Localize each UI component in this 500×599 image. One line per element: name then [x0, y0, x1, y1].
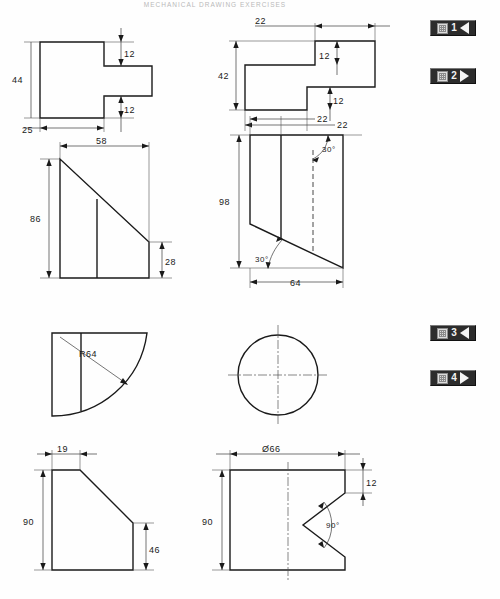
dim-label-r64: R64 [79, 349, 97, 359]
parallelogram-outline [250, 135, 343, 268]
arrow-d66-a [230, 451, 237, 456]
arrow-12-top-b [118, 59, 123, 66]
dim-label-44: 44 [12, 75, 23, 85]
dim-label-90-deg: 90° [326, 521, 340, 530]
nav-button-2-label: 2 [451, 71, 457, 81]
arrow-19-a [45, 451, 52, 456]
dim-label-22-top: 22 [255, 16, 266, 26]
dim-label-64: 64 [290, 278, 301, 288]
arrow-left-icon [460, 327, 469, 339]
grid-icon [437, 373, 448, 384]
arrow-58-a [60, 143, 67, 148]
dim-label-90-left: 90 [23, 517, 34, 527]
dim-label-d66: Ø66 [262, 444, 281, 454]
arrow-19-b [80, 451, 87, 456]
nav-button-2[interactable]: 2 [430, 68, 476, 84]
arrow-right-icon [460, 372, 469, 384]
figure-wedge-profile: 58 86 28 [12, 130, 212, 290]
grid-icon [437, 328, 448, 339]
dim-label-42: 42 [218, 71, 229, 81]
arrow-86-a [46, 159, 51, 166]
dim-label-12-upper: 12 [319, 51, 330, 61]
arrow-90l-b [40, 563, 45, 570]
drawing-sheet: MECHANICAL DRAWING EXERCISES 44 12 12 25 [0, 0, 500, 599]
arrow-right-icon [460, 70, 469, 82]
nav-button-3[interactable]: 3 [430, 325, 476, 341]
grid-icon [437, 23, 448, 34]
dim-label-30-upper: 30° [322, 145, 336, 154]
nav-button-1[interactable]: 1 [430, 20, 476, 36]
wedge-outline [60, 159, 149, 278]
page-title: MECHANICAL DRAWING EXERCISES [0, 1, 430, 8]
arrow-90l-a [40, 470, 45, 477]
nav-button-4-label: 4 [451, 373, 457, 383]
arrow-22-top-a [315, 23, 322, 28]
arrow-58-b [142, 143, 149, 148]
arrow-22-top-b [368, 23, 375, 28]
dim-label-12-top: 12 [124, 49, 135, 59]
arrow-12v-a [360, 463, 365, 470]
arrow-12-bot-b [118, 111, 123, 118]
arrow-90v-a [219, 470, 224, 477]
dim-label-30-lower: 30° [255, 255, 269, 264]
arrow-12-low-b [327, 103, 332, 110]
arrow-64-b [336, 279, 343, 284]
arrow-86-b [46, 271, 51, 278]
arrow-42-b [233, 103, 238, 110]
dim-label-98: 98 [219, 197, 230, 207]
arrow-28-a [159, 242, 164, 249]
figure-circle-with-centerlines [215, 315, 365, 435]
tee-outline [40, 42, 152, 118]
figure-vee-notch-cylinder: Ø66 12 90 90° [200, 440, 395, 585]
dim-label-28: 28 [165, 257, 176, 267]
z-outline [245, 41, 375, 110]
dim-label-46: 46 [149, 545, 160, 555]
arrow-12-up-a [334, 41, 339, 48]
grid-icon [437, 71, 448, 82]
arrow-98-b [236, 261, 241, 268]
nav-button-4[interactable]: 4 [430, 370, 476, 386]
arrow-12-top-a [118, 35, 123, 42]
arrow-arc-a [318, 502, 324, 509]
figure-parallelogram-prism: 22 98 64 30° 30° [210, 112, 420, 297]
dim-label-12-lower: 12 [333, 96, 344, 106]
arrow-98-a [236, 135, 241, 142]
arrow-46-a [143, 523, 148, 530]
arrow-42-a [233, 41, 238, 48]
figure-chamfered-block-profile: 19 90 46 [12, 440, 202, 585]
dim-label-86: 86 [30, 214, 41, 224]
chamfer-outline [52, 470, 133, 570]
dim-label-19: 19 [57, 444, 68, 454]
arrow-28-b [159, 271, 164, 278]
dim-label-22-p: 22 [317, 114, 328, 124]
arrow-d66-b [338, 451, 345, 456]
figure-quarter-round-profile: R64 [35, 315, 195, 435]
quarter-round-outline [52, 333, 147, 416]
figure-tee-profile: 44 12 12 25 [10, 20, 210, 135]
arrow-30-upper-top [326, 135, 331, 142]
arrow-46-b [143, 563, 148, 570]
nav-button-1-label: 1 [451, 23, 457, 33]
arrow-12-bot-a [118, 96, 123, 103]
arrow-90v-b [219, 563, 224, 570]
arrow-left-icon [460, 22, 469, 34]
arrow-12-up-b [334, 58, 339, 65]
dim-label-12-v: 12 [366, 478, 377, 488]
dim-label-58: 58 [96, 136, 107, 146]
arrow-12v-b [360, 493, 365, 500]
dim-label-12-bottom: 12 [124, 105, 135, 115]
arrow-22-p [250, 116, 257, 121]
leader-r64 [60, 337, 127, 384]
arrow-64-a [250, 279, 257, 284]
vee-notch-outline [230, 470, 345, 570]
arrow-12-low-a [327, 87, 332, 94]
nav-button-3-label: 3 [451, 328, 457, 338]
dim-label-90-v: 90 [202, 517, 213, 527]
arrow-arc-b [318, 541, 324, 548]
